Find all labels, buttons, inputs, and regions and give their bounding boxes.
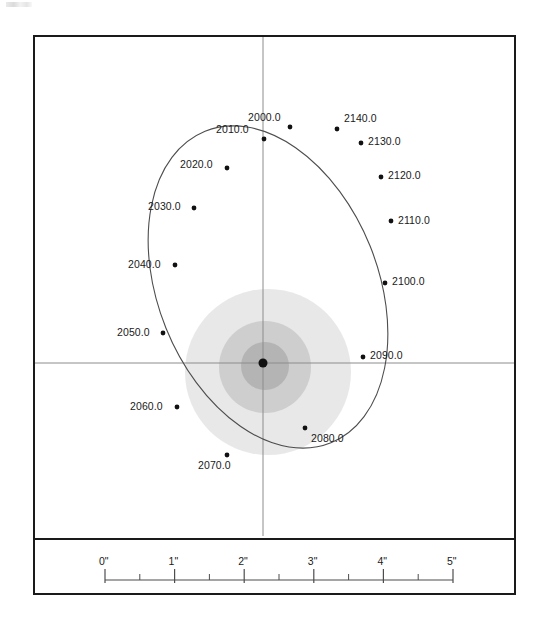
primary-star-marker (259, 359, 268, 368)
scale-tick-label-5: 5" (447, 556, 457, 567)
epoch-label-2060-0: 2060.0 (130, 401, 163, 412)
epoch-marker-2020-0 (225, 166, 230, 171)
epoch-marker-2080-0 (303, 426, 308, 431)
scale-tick-label-3: 3" (308, 556, 318, 567)
epoch-label-2120-0: 2120.0 (388, 170, 421, 181)
scale-bar-graphic (105, 569, 453, 583)
epoch-marker-2060-0 (175, 405, 180, 410)
epoch-label-2110-0: 2110.0 (398, 215, 430, 226)
epoch-marker-2040-0 (173, 263, 178, 268)
epoch-label-2130-0: 2130.0 (368, 136, 401, 147)
epoch-marker-2100-0 (383, 281, 388, 286)
epoch-label-2080-0: 2080.0 (311, 433, 344, 444)
epoch-marker-2140-0 (335, 127, 340, 132)
epoch-label-2010-0: 2010.0 (216, 124, 249, 135)
epoch-label-2030-0: 2030.0 (148, 201, 181, 212)
epoch-marker-2010-0 (262, 137, 267, 142)
epoch-label-2100-0: 2100.0 (392, 276, 425, 287)
epoch-label-2000-0: 2000.0 (248, 112, 281, 123)
epoch-marker-2120-0 (379, 175, 384, 180)
epoch-label-2070-0: 2070.0 (198, 460, 231, 471)
epoch-marker-2000-0 (288, 125, 293, 130)
epoch-marker-2030-0 (192, 206, 197, 211)
scale-tick-label-4: 4" (377, 556, 387, 567)
epoch-label-2090-0: 2090.0 (370, 350, 403, 361)
scale-tick-label-2: 2" (238, 556, 248, 567)
epoch-marker-2050-0 (161, 331, 166, 336)
companion-halo (185, 289, 351, 455)
epoch-label-2040-0: 2040.0 (128, 259, 161, 270)
epoch-marker-2110-0 (389, 219, 394, 224)
epoch-marker-2090-0 (361, 355, 366, 360)
scale-tick-label-1: 1" (169, 556, 179, 567)
orbit-canvas (0, 0, 547, 618)
epoch-label-2050-0: 2050.0 (117, 327, 150, 338)
epoch-marker-2070-0 (225, 453, 230, 458)
epoch-label-2020-0: 2020.0 (180, 159, 213, 170)
orbit-figure: 2000.02010.02020.02030.02040.02050.02060… (0, 0, 547, 618)
scale-tick-label-0: 0" (99, 556, 109, 567)
epoch-label-2140-0: 2140.0 (344, 113, 377, 124)
epoch-marker-2130-0 (359, 141, 364, 146)
